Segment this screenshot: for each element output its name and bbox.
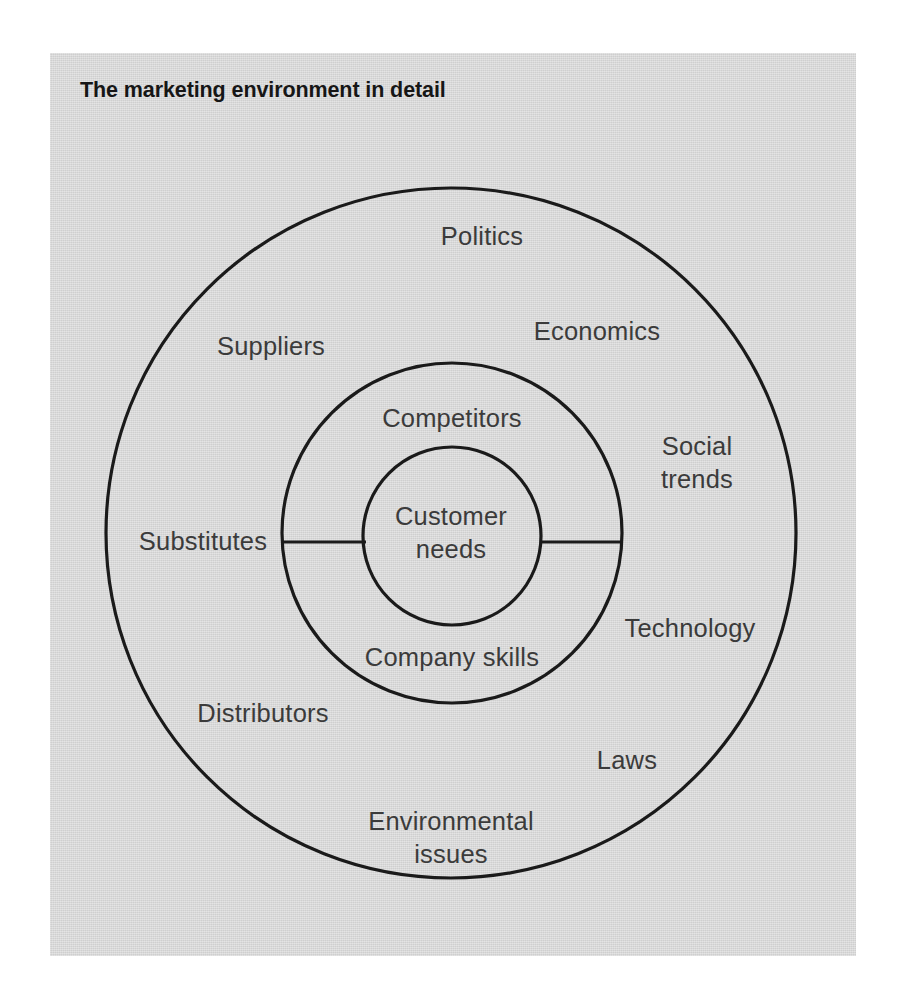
label-social-trends: Social trends — [622, 430, 772, 496]
label-customer-needs: Customer needs — [356, 500, 546, 566]
label-customer-needs-line-2: needs — [416, 535, 486, 563]
label-competitors: Competitors — [382, 402, 522, 435]
label-social-trends-line-2: trends — [661, 465, 733, 493]
label-social-trends-line-1: Social — [662, 432, 733, 460]
label-environmental-issues-line-1: Environmental — [368, 807, 534, 835]
label-substitutes: Substitutes — [139, 525, 267, 558]
label-customer-needs-line-1: Customer — [395, 502, 507, 530]
label-laws: Laws — [597, 744, 657, 777]
label-suppliers: Suppliers — [217, 330, 325, 363]
label-politics: Politics — [441, 220, 523, 253]
label-distributors: Distributors — [197, 697, 328, 730]
label-technology: Technology — [624, 612, 755, 645]
figure-root: The marketing environment in detail Cust… — [0, 0, 901, 1005]
label-environmental-issues: Environmental issues — [311, 805, 591, 871]
label-environmental-issues-line-2: issues — [414, 840, 487, 868]
label-company-skills: Company skills — [365, 641, 539, 674]
label-economics: Economics — [534, 315, 661, 348]
